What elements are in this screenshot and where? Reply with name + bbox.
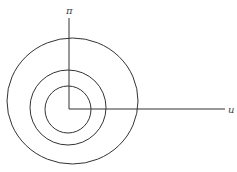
horizontal-axis-label: u xyxy=(228,104,234,115)
diagram-canvas: π u xyxy=(0,0,237,172)
middle-circle xyxy=(30,70,106,145)
vertical-axis-label: π xyxy=(65,5,73,16)
